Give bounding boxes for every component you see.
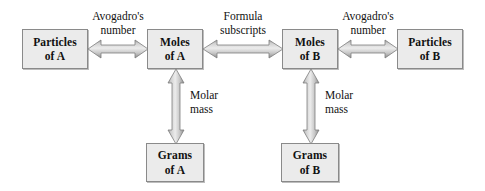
label-formula-subscripts: Formula subscripts xyxy=(203,9,283,37)
label-formula-subscripts-line1: Formula xyxy=(203,9,283,23)
label-formula-subscripts-line2: subscripts xyxy=(203,23,283,37)
node-particles-of-b-line1: Particles xyxy=(408,35,452,49)
arrow-moles-a-moles-b xyxy=(203,38,283,60)
label-molar-mass-b-line2: mass xyxy=(325,102,375,116)
label-avogadros-number-left-line1: Avogadro's xyxy=(78,9,158,23)
node-particles-of-a-line2: of A xyxy=(45,49,66,63)
arrow-moles-a-grams-a xyxy=(166,69,186,144)
node-grams-of-b[interactable]: Grams of B xyxy=(281,143,339,182)
label-molar-mass-a: Molar mass xyxy=(190,88,240,116)
node-moles-of-a-line2: of A xyxy=(165,49,186,63)
label-avogadros-number-left-line2: number xyxy=(78,23,158,37)
node-particles-of-b-line2: of B xyxy=(420,49,441,63)
node-particles-of-a-line1: Particles xyxy=(33,35,77,49)
label-molar-mass-a-line2: mass xyxy=(190,102,240,116)
label-avogadros-number-right-line1: Avogadro's xyxy=(328,9,408,23)
node-grams-of-b-line2: of B xyxy=(300,163,321,177)
label-molar-mass-b-line1: Molar xyxy=(325,88,375,102)
node-moles-of-b-line2: of B xyxy=(300,49,321,63)
node-grams-of-a-line2: of A xyxy=(165,163,186,177)
node-moles-of-a-line1: Moles xyxy=(160,35,190,49)
label-avogadros-number-left: Avogadro's number xyxy=(78,9,158,37)
node-grams-of-b-line1: Grams xyxy=(293,148,327,162)
arrow-particles-a-moles-a xyxy=(88,38,148,60)
node-grams-of-a[interactable]: Grams of A xyxy=(146,143,204,182)
arrow-moles-b-grams-b xyxy=(301,69,321,144)
node-moles-of-b-line1: Moles xyxy=(295,35,325,49)
label-avogadros-number-right-line2: number xyxy=(328,23,408,37)
label-molar-mass-a-line1: Molar xyxy=(190,88,240,102)
label-avogadros-number-right: Avogadro's number xyxy=(328,9,408,37)
mole-conversion-diagram: Particles of A Moles of A Moles of B Par… xyxy=(0,0,485,191)
arrow-moles-b-particles-b xyxy=(338,38,398,60)
node-grams-of-a-line1: Grams xyxy=(158,148,192,162)
label-molar-mass-b: Molar mass xyxy=(325,88,375,116)
